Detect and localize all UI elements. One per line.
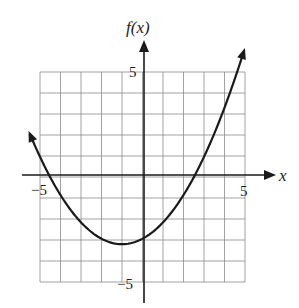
grid (40, 72, 245, 282)
x-tick-label-right: 5 (240, 183, 248, 199)
function-graph: f(x) x 5 −5 −5 5 (0, 0, 299, 308)
y-axis-arrow-icon (139, 40, 149, 52)
y-tick-label-bottom: −5 (117, 276, 133, 292)
y-axis-label: f(x) (126, 18, 150, 37)
curve-left-arrow-icon (29, 131, 37, 143)
x-axis-label: x (278, 166, 287, 185)
x-tick-label-left: −5 (31, 182, 47, 198)
curve-right-arrow-icon (237, 48, 246, 60)
curve-layer (29, 48, 246, 244)
y-tick-label-top: 5 (129, 64, 137, 80)
labels: f(x) x 5 −5 −5 5 (31, 18, 287, 292)
parabola-curve (30, 51, 244, 244)
x-axis-arrow-icon (264, 170, 276, 180)
